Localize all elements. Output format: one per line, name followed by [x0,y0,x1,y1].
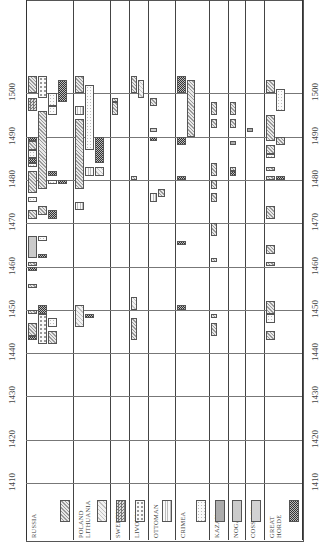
event-bar [58,180,67,184]
column-divider [175,0,176,540]
event-bar [177,76,186,93]
event-bar [48,180,57,184]
column-divider [148,0,149,540]
event-bar [276,176,285,180]
gridline-1480 [26,180,302,181]
event-bar [230,171,236,175]
event-bar [28,158,37,162]
event-bar [48,106,57,115]
event-bar [48,210,57,219]
legend-swatch [162,500,172,522]
event-bar [266,115,275,141]
year-tick-right: 1450 [310,294,320,324]
event-bar [138,80,144,97]
year-tick-right: 1470 [310,207,320,237]
event-bar [28,98,37,111]
event-bar [230,102,236,115]
legend-label: LITHUANIA [84,500,91,538]
event-bar [75,305,84,327]
event-bar [266,331,275,340]
year-tick-left: 1410 [7,467,17,497]
event-bar [150,193,157,202]
gridline-1430 [26,396,302,397]
event-bar [177,305,186,309]
column-divider [26,0,27,540]
event-bar [150,137,157,141]
event-bar [211,323,217,336]
year-tick-right: 1480 [310,164,320,194]
year-tick-left: 1460 [7,251,17,281]
event-bar [211,258,217,262]
event-bar [112,98,118,102]
event-bar [58,80,67,102]
event-bar [177,137,186,146]
event-bar [28,336,37,340]
event-bar [85,85,94,150]
column-divider [129,0,130,540]
event-bar [85,167,94,176]
event-bar [211,223,217,236]
legend-swatch [60,500,70,522]
year-tick-left: 1490 [7,121,17,151]
legend-label: GREAT [268,516,275,538]
event-bar [112,102,118,115]
event-bar [38,76,47,98]
event-bar [85,314,94,318]
event-bar [28,163,37,167]
column-divider [73,0,74,540]
legend-swatch [135,500,145,522]
gridline-1440 [26,353,302,354]
event-bar [75,202,84,211]
event-bar [38,111,47,189]
year-tick-left: 1420 [7,424,17,454]
gridline-1500 [26,93,302,94]
event-bar [266,314,275,323]
event-bar [177,241,186,245]
legend-swatch [97,500,107,522]
year-tick-right: 1460 [310,251,320,281]
event-bar [48,318,57,327]
year-tick-right: 1430 [310,380,320,410]
legend-swatch [196,500,206,522]
event-bar [150,128,157,132]
event-bar [211,119,217,128]
column-divider [264,0,265,540]
event-bar [48,93,57,106]
column-divider [302,0,303,540]
legend-swatch [116,500,126,522]
legend-label: POLAND [77,510,84,538]
year-tick-right: 1440 [310,337,320,367]
event-bar [158,189,165,198]
event-bar [28,284,37,288]
legend-label: RUSSIA [30,514,37,538]
gridline-1460 [26,267,302,268]
gridline-1470 [26,223,302,224]
event-bar [187,80,196,136]
year-tick-right: 1490 [310,121,320,151]
event-bar [211,102,217,115]
gridline-1490 [26,137,302,138]
legend-label: CRIMEA [179,512,186,538]
event-bar [266,145,275,154]
event-bar [38,236,47,240]
legend-swatch [251,500,261,522]
chart-frame [26,0,304,542]
event-bar [266,262,275,266]
event-bar [95,167,104,176]
year-tick-right: 1410 [310,467,320,497]
event-bar [75,119,84,188]
legend-swatch [232,500,242,522]
year-tick-right: 1500 [310,77,320,107]
gridline-1450 [26,310,302,311]
event-bar [150,98,157,107]
event-bar [48,171,57,175]
event-bar [266,206,275,219]
event-bar [247,128,253,132]
event-bar [276,137,285,146]
event-bar [131,76,137,93]
event-bar [28,210,37,219]
timeline-chart: 1410141014201420143014301440144014501450… [0,0,328,547]
event-bar [266,245,275,254]
column-divider [110,0,111,540]
gridline-1420 [26,440,302,441]
